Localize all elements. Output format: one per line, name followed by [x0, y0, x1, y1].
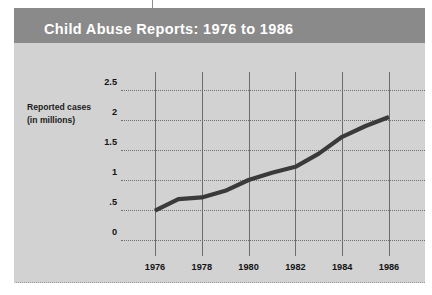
chart-title: Child Abuse Reports: 1976 to 1986	[44, 21, 294, 37]
chart-figure: Child Abuse Reports: 1976 to 1986 Report…	[0, 0, 432, 295]
y-axis-caption-line-1: Reported cases	[27, 101, 91, 114]
title-banner: Child Abuse Reports: 1976 to 1986	[14, 8, 425, 43]
y-axis-caption: Reported cases (in millions)	[27, 101, 91, 126]
y-axis-caption-line-2: (in millions)	[27, 114, 91, 127]
chart-panel	[14, 43, 425, 283]
